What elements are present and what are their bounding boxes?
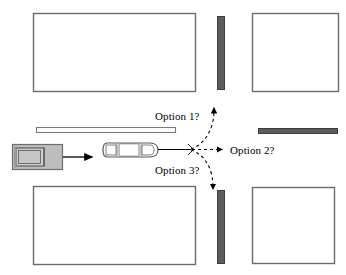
medians-group	[37, 128, 176, 133]
building-bottom-right	[253, 188, 335, 264]
car-roof	[119, 144, 139, 156]
car-windshield	[142, 145, 154, 155]
building-top-left	[34, 14, 196, 92]
vehicle-gray-van	[13, 145, 63, 170]
barrier-horizontal-right	[259, 129, 338, 134]
buildings-group	[34, 14, 339, 265]
barrier-vertical-top	[218, 17, 225, 90]
building-bottom-left	[34, 187, 196, 265]
building-top-right	[253, 14, 339, 92]
van-left-edge	[14, 147, 16, 168]
vehicle-white-car	[103, 143, 158, 157]
median-horizontal-left	[37, 128, 176, 133]
label-option-1: Option 1?	[155, 110, 200, 122]
label-option-2: Option 2?	[230, 144, 275, 156]
diagram-canvas	[0, 0, 346, 275]
van-window	[19, 151, 41, 164]
intersection-diagram: Option 1? Option 2? Option 3?	[0, 0, 346, 275]
barrier-vertical-bottom	[218, 191, 225, 264]
label-option-3: Option 3?	[155, 164, 200, 176]
car-rear-window	[106, 145, 116, 155]
